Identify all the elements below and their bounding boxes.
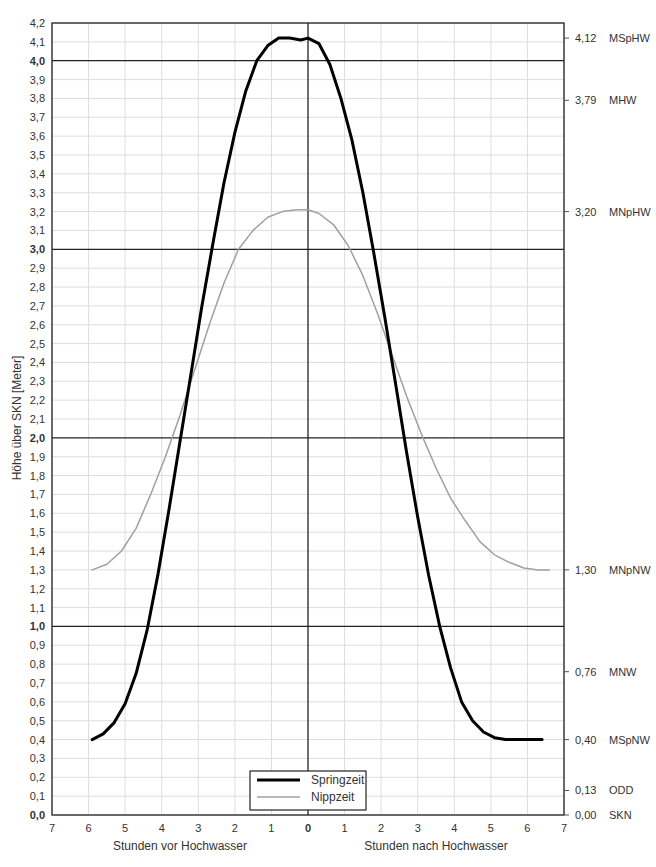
reference-name: MSpNW xyxy=(609,734,651,746)
y-tick-label: 0,0 xyxy=(30,809,45,821)
y-tick-label: 1,3 xyxy=(30,564,45,576)
series-layer xyxy=(92,38,549,740)
y-tick-label: 4,0 xyxy=(30,55,45,67)
y-tick-label: 0,4 xyxy=(30,734,45,746)
series-springzeit xyxy=(92,38,542,740)
legend: Springzeit Nippzeit xyxy=(250,771,366,810)
y-tick-label: 1,9 xyxy=(30,451,45,463)
reference-value: 3,79 xyxy=(575,94,596,106)
x-tick-label: 2 xyxy=(232,822,238,834)
reference-name: SKN xyxy=(609,809,632,821)
y-tick-label: 2,8 xyxy=(30,281,45,293)
y-tick-label: 0,1 xyxy=(30,790,45,802)
y-tick-label: 3,2 xyxy=(30,206,45,218)
y-tick-label: 1,4 xyxy=(30,545,45,557)
x-tick-label: 0 xyxy=(305,822,311,834)
series-nippzeit xyxy=(92,210,549,570)
y-axis-tick-labels: 0,00,10,20,30,40,50,60,70,80,91,01,11,21… xyxy=(30,17,45,821)
x-axis-tick-labels: 765432101234567 xyxy=(49,822,567,834)
y-tick-label: 0,8 xyxy=(30,658,45,670)
y-tick-label: 1,5 xyxy=(30,526,45,538)
y-tick-label: 3,5 xyxy=(30,149,45,161)
reference-value: 0,00 xyxy=(575,809,596,821)
x-tick-label: 6 xyxy=(86,822,92,834)
y-tick-label: 0,7 xyxy=(30,677,45,689)
reference-name: MNpHW xyxy=(609,206,651,218)
y-tick-label: 3,4 xyxy=(30,168,45,180)
y-tick-label: 3,3 xyxy=(30,187,45,199)
x-tick-label: 3 xyxy=(195,822,201,834)
x-tick-label: 6 xyxy=(524,822,530,834)
y-tick-label: 3,6 xyxy=(30,130,45,142)
y-tick-label: 2,2 xyxy=(30,394,45,406)
y-tick-label: 4,1 xyxy=(30,36,45,48)
reference-value: 3,20 xyxy=(575,206,596,218)
y-tick-label: 2,4 xyxy=(30,356,45,368)
tide-chart: 0,00,10,20,30,40,50,60,70,80,91,01,11,21… xyxy=(0,0,656,867)
legend-label-nippzeit: Nippzeit xyxy=(311,790,355,804)
reference-name: MNpNW xyxy=(609,564,651,576)
x-tick-label: 7 xyxy=(49,822,55,834)
x-tick-label: 4 xyxy=(451,822,457,834)
y-tick-label: 1,2 xyxy=(30,583,45,595)
y-tick-label: 2,7 xyxy=(30,300,45,312)
x-tick-label: 5 xyxy=(488,822,494,834)
y-tick-label: 1,6 xyxy=(30,507,45,519)
y-tick-label: 0,6 xyxy=(30,696,45,708)
reference-value: 0,76 xyxy=(575,666,596,678)
legend-label-springzeit: Springzeit xyxy=(311,773,365,787)
y-tick-label: 1,1 xyxy=(30,602,45,614)
reference-name: ODD xyxy=(609,784,634,796)
y-tick-label: 3,9 xyxy=(30,74,45,86)
x-tick-label: 5 xyxy=(122,822,128,834)
reference-name: MNW xyxy=(609,666,637,678)
x-tick-label: 3 xyxy=(415,822,421,834)
y-tick-label: 2,0 xyxy=(30,432,45,444)
y-tick-label: 3,8 xyxy=(30,92,45,104)
x-tick-label: 7 xyxy=(561,822,567,834)
x-tick-label: 4 xyxy=(159,822,165,834)
reference-value: 0,40 xyxy=(575,734,596,746)
reference-name: MHW xyxy=(609,94,637,106)
y-axis-title: Höhe über SKN [Meter] xyxy=(10,356,24,481)
y-tick-label: 2,6 xyxy=(30,319,45,331)
y-tick-label: 1,8 xyxy=(30,470,45,482)
y-tick-label: 1,7 xyxy=(30,488,45,500)
y-tick-label: 1,0 xyxy=(30,620,45,632)
x-tick-label: 2 xyxy=(378,822,384,834)
reference-levels: 4,12MSpHW3,79MHW3,20MNpHW1,30MNpNW0,76MN… xyxy=(564,32,651,821)
y-tick-label: 0,5 xyxy=(30,715,45,727)
reference-value: 1,30 xyxy=(575,564,596,576)
y-tick-label: 3,0 xyxy=(30,243,45,255)
reference-value: 4,12 xyxy=(575,32,596,44)
y-tick-label: 4,2 xyxy=(30,17,45,29)
y-tick-label: 2,1 xyxy=(30,413,45,425)
y-tick-label: 3,7 xyxy=(30,111,45,123)
reference-value: 0,13 xyxy=(575,784,596,796)
x-axis-title-before: Stunden vor Hochwasser xyxy=(113,839,247,853)
x-axis-title-after: Stunden nach Hochwasser xyxy=(364,839,507,853)
y-tick-label: 2,9 xyxy=(30,262,45,274)
reference-name: MSpHW xyxy=(609,32,651,44)
x-tick-label: 1 xyxy=(342,822,348,834)
y-tick-label: 3,1 xyxy=(30,224,45,236)
x-tick-label: 1 xyxy=(268,822,274,834)
y-tick-label: 0,3 xyxy=(30,752,45,764)
y-tick-label: 2,3 xyxy=(30,375,45,387)
y-tick-label: 0,9 xyxy=(30,639,45,651)
y-tick-label: 0,2 xyxy=(30,771,45,783)
y-tick-label: 2,5 xyxy=(30,338,45,350)
